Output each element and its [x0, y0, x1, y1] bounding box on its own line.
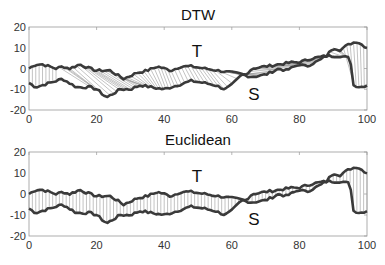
x-tick-label: 0 [26, 113, 32, 125]
y-tick-label: -20 [10, 230, 26, 242]
figure: DTW 20100-10-20 020406080100 T S Euclide… [0, 0, 385, 265]
x-tick-label: 20 [90, 113, 102, 125]
y-tick-label: 10 [14, 167, 26, 179]
y-tick-label: 20 [14, 21, 26, 33]
y-tick-label: -10 [10, 83, 26, 95]
x-tick-label: 100 [358, 113, 376, 125]
x-tick-label: 100 [358, 239, 376, 251]
y-tick-label: -10 [10, 209, 26, 221]
y-tick-label: 20 [14, 146, 26, 158]
y-tick-label: 0 [20, 188, 26, 200]
label-T-dtw: T [192, 42, 202, 61]
x-tick-label: 60 [226, 113, 238, 125]
panel-euclidean: Euclidean 20100-10-20 020406080100 T S [10, 131, 376, 251]
x-tick-label: 60 [226, 239, 238, 251]
y-tick-label: 10 [14, 42, 26, 54]
label-S-dtw: S [248, 85, 259, 104]
panel-dtw: DTW 20100-10-20 020406080100 T S [10, 6, 376, 125]
y-tick-label: 0 [20, 63, 26, 75]
x-tick-label: 20 [90, 239, 102, 251]
x-tick-label: 40 [158, 239, 170, 251]
y-tick-label: -20 [10, 104, 26, 116]
x-tick-label: 80 [293, 113, 305, 125]
label-T-euclidean: T [192, 167, 202, 186]
panel-title-euclidean: Euclidean [165, 131, 231, 148]
panel-title-dtw: DTW [181, 6, 216, 23]
x-tick-label: 80 [293, 239, 305, 251]
x-tick-label: 0 [26, 239, 32, 251]
x-tick-label: 40 [158, 113, 170, 125]
label-S-euclidean: S [248, 210, 259, 229]
